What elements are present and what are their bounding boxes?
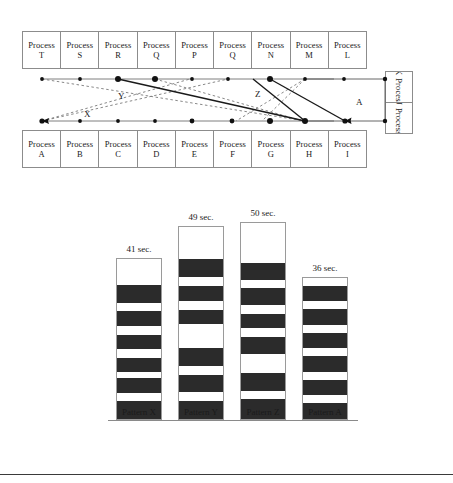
bar-segment-dark [241,263,285,280]
bar-value-label: 41 sec. [127,244,152,254]
bar-segment-dark [117,335,161,350]
edge-label-a: A [356,97,363,107]
node-dot [78,119,82,123]
bar-segment-light [303,301,347,309]
dashed-edge-6 [262,79,305,121]
bar-segment-light [117,259,161,285]
x-axis-line [108,420,358,421]
bar-segment-dark [303,380,347,396]
bar-segment-dark [179,259,223,277]
bar-value-label: 49 sec. [189,212,214,222]
bar-segment-light [179,277,223,286]
bar-segment-light [303,278,347,286]
bar-segment-light [117,393,161,402]
edge-label-y: Y [118,91,125,101]
bar-segment-dark [303,333,347,349]
bar-segment-dark [117,378,161,393]
node-dot [226,77,230,81]
dashed-edge-3 [42,79,228,121]
bar-segment-dark [117,358,161,373]
bar-body[interactable] [302,277,348,420]
bar-segment-dark [179,348,223,366]
bar-segment-light [303,395,347,403]
bar-segment-dark [303,356,347,372]
bar-chart: 41 sec.Pattern X49 sec.Pattern Y50 sec.P… [0,180,453,465]
bar-value-label: 36 sec. [313,263,338,273]
bar-segment-dark [117,311,161,326]
bar-segment-light [179,227,223,259]
bar-segment-light [179,301,223,310]
node-dot [190,77,194,81]
bar-segment-light [179,324,223,348]
node-dot [302,118,308,124]
bar-category-label: Pattern Z [246,407,279,417]
node-dot [383,119,387,123]
node-dot [78,77,82,81]
bar-segment-dark [241,337,285,354]
bar-category-label: Pattern Y [184,407,218,417]
bar-segment-light [241,280,285,289]
bar-segment-light [303,348,347,356]
dashed-edge-4 [42,79,190,121]
node-dot [267,76,273,82]
node-dot [230,119,235,124]
node-dot [190,119,195,124]
node-dot [303,77,307,81]
bar-segment-light [241,328,285,337]
bar-body[interactable] [178,226,224,420]
bar-segment-dark [241,373,285,390]
footer-divider [0,474,453,475]
process-diagram: ProcessTProcessSProcessRProcessQProcessP… [0,0,453,180]
bar-segment-light [117,326,161,335]
edge-label-z: Z [255,89,261,99]
process-link-layer [0,0,453,180]
bar-segment-light [241,223,285,263]
bar-segment-dark [241,314,285,328]
bar-segment-light [303,325,347,333]
bar-category-label: Pattern X [122,407,156,417]
bar-segment-light [117,349,161,358]
node-dot [153,119,157,123]
bar-segment-light [241,354,285,374]
bar-segment-light [117,303,161,312]
bar-segment-dark [303,286,347,302]
bar-value-label: 50 sec. [251,208,276,218]
bar-segment-dark [179,375,223,393]
bar-category-label: Pattern A [308,407,342,417]
node-dot [267,118,273,124]
bar-segment-dark [117,285,161,302]
bar-segment-dark [179,310,223,325]
plot-area: 41 sec.Pattern X49 sec.Pattern Y50 sec.P… [108,180,358,442]
dashed-edge-1 [42,79,305,121]
bar-segment-light [241,391,285,400]
node-dot [342,77,346,81]
node-dot [383,77,387,81]
bar-segment-light [179,392,223,401]
node-dot [40,77,44,81]
bar-body[interactable] [116,258,162,420]
node-dot [152,76,158,82]
bar-segment-light [241,305,285,314]
figure-root: ProcessTProcessSProcessRProcessQProcessP… [0,0,453,483]
solid-edge-1 [118,79,305,121]
bar-segment-light [179,366,223,375]
node-dot [116,119,120,123]
bar-segment-light [303,372,347,380]
bar-segment-dark [241,288,285,305]
dashed-edge-5 [236,79,305,121]
bar-body[interactable] [240,222,286,420]
edge-label-x: X [84,109,91,119]
bar-segment-dark [179,286,223,301]
node-dot [115,76,121,82]
bar-segment-dark [303,309,347,325]
